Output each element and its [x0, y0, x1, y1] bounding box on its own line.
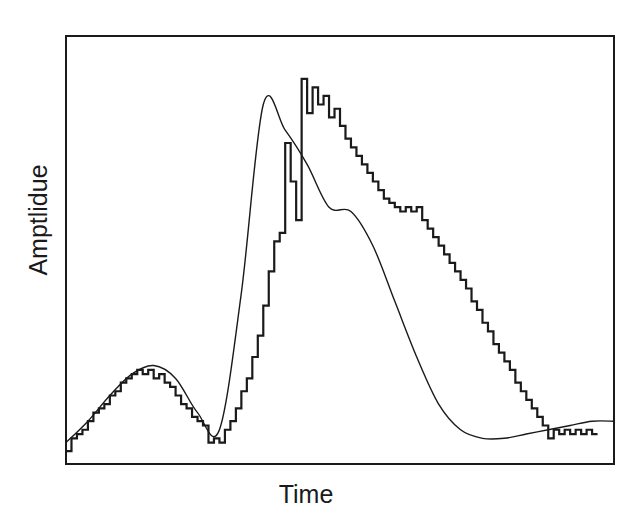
- quantized-staircase-line: [66, 79, 598, 451]
- y-axis-label: Amptlidue: [24, 164, 53, 275]
- smooth-signal-line: [66, 96, 614, 443]
- x-axis-label: Time: [279, 480, 334, 509]
- plot-canvas: [0, 0, 633, 518]
